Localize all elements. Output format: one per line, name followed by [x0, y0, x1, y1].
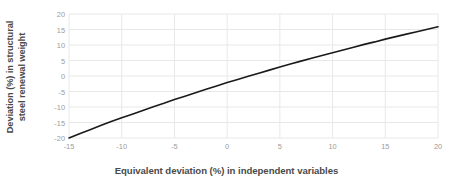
- x-axis-tick-labels: -15-10-505101520: [0, 142, 453, 156]
- data-series-line: [69, 27, 438, 138]
- x-axis-title: Equivalent deviation (%) in independent …: [0, 165, 453, 176]
- x-axis-tick-label: 10: [313, 142, 353, 151]
- x-axis-tick-label: -10: [102, 142, 142, 151]
- chart-figure: Deviation (%) in structural steel renewa…: [0, 0, 453, 186]
- gridlines: [69, 14, 438, 138]
- data-series-group: [69, 27, 438, 138]
- x-axis-tick-label: -15: [49, 142, 89, 151]
- x-axis-tick-label: 15: [365, 142, 405, 151]
- x-axis-tick-label: -5: [154, 142, 194, 151]
- plot-area: [0, 0, 453, 186]
- x-axis-tick-label: 0: [207, 142, 247, 151]
- x-axis-tick-label: 5: [260, 142, 300, 151]
- x-axis-tick-label: 20: [418, 142, 453, 151]
